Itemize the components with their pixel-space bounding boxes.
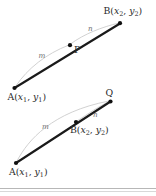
- label-ratio-n-top: n: [88, 24, 93, 33]
- segment-ab-top: [15, 24, 121, 89]
- top-diagram-group: B(x2, y2) P A(x1, y1) m n: [7, 5, 143, 104]
- label-b-top: B(x2, y2): [104, 5, 143, 18]
- label-ratio-n-bottom: n: [93, 110, 98, 119]
- label-ratio-m-bottom: m: [42, 122, 49, 131]
- label-a-bottom: A(x1, y1): [8, 166, 48, 179]
- label-ratio-m-top: m: [39, 51, 46, 60]
- figure-canvas: B(x2, y2) P A(x1, y1) m n Q B(x2, y2) A(…: [0, 0, 156, 196]
- label-p-top: P: [74, 44, 80, 55]
- arc-n-top: [71, 23, 120, 44]
- point-a-bottom: [14, 161, 18, 165]
- geometry-figure: B(x2, y2) P A(x1, y1) m n Q B(x2, y2) A(…: [0, 0, 156, 196]
- point-a-top: [12, 86, 16, 90]
- label-a-top: A(x1, y1): [7, 91, 47, 104]
- point-p-top: [68, 43, 72, 47]
- point-b-top: [118, 21, 122, 25]
- label-b-bottom: B(x2, y2): [70, 124, 109, 137]
- label-q-bottom: Q: [106, 87, 114, 98]
- point-q-bottom: [108, 99, 112, 103]
